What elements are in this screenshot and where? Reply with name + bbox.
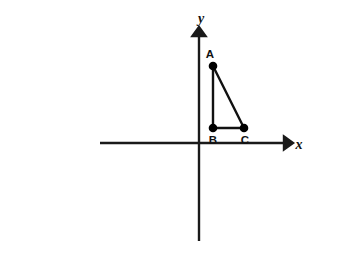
vertex-label-b: B <box>209 134 217 146</box>
triangle-side-ca <box>213 66 244 128</box>
y-axis-arrowhead-icon <box>193 27 206 36</box>
vertex-label-c: C <box>241 134 249 146</box>
vertex-point-c <box>240 124 249 133</box>
coordinate-diagram: A B C x y <box>0 0 339 254</box>
vertex-point-b <box>209 124 218 133</box>
vertex-point-a <box>209 62 218 71</box>
vertex-label-a: A <box>206 48 214 60</box>
x-axis-label: x <box>295 137 303 152</box>
y-axis-label: y <box>196 11 205 26</box>
x-axis-arrowhead-icon <box>284 137 293 150</box>
coordinate-plane-figure: A B C x y <box>0 0 339 254</box>
